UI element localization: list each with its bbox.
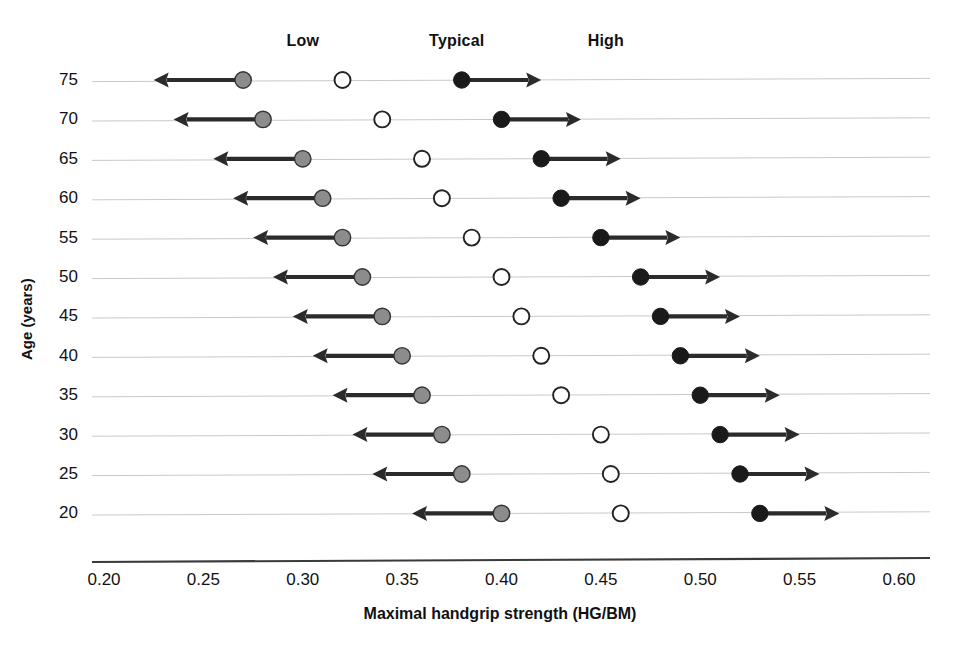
x-tick-0-45: 0.45 [566, 570, 636, 590]
marker-typical-age-30 [593, 427, 609, 443]
arrow-low-age-70 [174, 112, 263, 127]
marker-low-age-75 [235, 72, 251, 88]
y-tick-55: 55 [32, 228, 78, 248]
y-tick-40: 40 [32, 346, 78, 366]
marker-low-age-50 [354, 269, 370, 285]
y-tick-50: 50 [32, 267, 78, 287]
arrow-low-age-60 [233, 191, 322, 206]
marker-low-age-55 [334, 229, 350, 245]
marker-high-age-45 [652, 308, 668, 324]
x-tick-0-35: 0.35 [367, 570, 437, 590]
handgrip-strength-chart: LowTypicalHigh7570656055504540353025200.… [0, 0, 953, 651]
arrow-low-age-35 [333, 388, 422, 403]
marker-low-age-70 [255, 111, 271, 127]
arrow-low-age-40 [313, 348, 402, 363]
arrow-high-age-65 [541, 151, 621, 166]
marker-high-age-20 [752, 505, 768, 521]
arrow-low-age-65-head [213, 151, 228, 166]
gridline-age-30 [92, 433, 930, 436]
marker-typical-age-35 [553, 387, 569, 403]
x-tick-0-30: 0.30 [268, 570, 338, 590]
marker-typical-age-65 [414, 151, 430, 167]
arrow-high-age-60 [561, 191, 641, 206]
y-tick-25: 25 [32, 464, 78, 484]
marker-high-age-35 [692, 387, 708, 403]
group-label-low: Low [286, 32, 319, 50]
y-tick-30: 30 [32, 425, 78, 445]
arrow-low-age-60-head [233, 191, 248, 206]
arrow-high-age-25-head [805, 467, 820, 482]
gridline-age-50 [92, 275, 930, 278]
y-tick-60: 60 [32, 188, 78, 208]
marker-high-age-30 [712, 426, 728, 442]
marker-high-age-70 [493, 111, 509, 127]
arrow-high-age-40-head [745, 348, 760, 363]
marker-typical-age-40 [533, 348, 549, 364]
marker-low-age-40 [394, 348, 410, 364]
y-tick-35: 35 [32, 385, 78, 405]
arrow-low-age-50-head [273, 270, 288, 285]
y-tick-70: 70 [32, 109, 78, 129]
marker-typical-age-60 [434, 190, 450, 206]
marker-typical-age-70 [374, 111, 390, 127]
gridline-age-35 [92, 394, 930, 397]
arrow-high-age-20 [760, 506, 840, 521]
gridline-age-60 [92, 197, 930, 200]
x-tick-0-50: 0.50 [665, 570, 735, 590]
arrow-low-age-45-head [293, 309, 308, 324]
group-label-high: High [588, 32, 624, 50]
arrow-low-age-20 [412, 506, 501, 521]
arrow-high-age-75 [462, 73, 542, 88]
group-label-typical: Typical [429, 32, 484, 50]
arrow-low-age-75 [154, 73, 243, 88]
arrow-high-age-35 [700, 388, 780, 403]
x-tick-0-60: 0.60 [864, 570, 934, 590]
marker-high-age-50 [632, 269, 648, 285]
x-tick-0-40: 0.40 [467, 570, 537, 590]
arrow-low-age-55-head [253, 230, 268, 245]
marker-high-age-75 [454, 72, 470, 88]
marker-high-age-55 [593, 229, 609, 245]
marker-low-age-60 [314, 190, 330, 206]
y-tick-75: 75 [32, 70, 78, 90]
marker-high-age-65 [533, 151, 549, 167]
arrow-low-age-30 [352, 427, 441, 442]
arrow-high-age-35-head [765, 388, 780, 403]
marker-low-age-35 [414, 387, 430, 403]
arrow-high-age-45 [661, 309, 741, 324]
arrow-low-age-55 [253, 230, 342, 245]
marker-typical-age-45 [513, 308, 529, 324]
plot-area [0, 0, 953, 651]
x-axis-line [92, 558, 930, 562]
arrow-low-age-35-head [333, 388, 348, 403]
arrow-low-age-50 [273, 270, 362, 285]
x-tick-0-20: 0.20 [69, 570, 139, 590]
y-axis-title: Age (years) [18, 278, 35, 360]
arrow-high-age-25 [740, 467, 820, 482]
arrow-high-age-50-head [705, 270, 720, 285]
arrow-high-age-55-head [665, 230, 680, 245]
marker-low-age-25 [454, 466, 470, 482]
marker-typical-age-25 [603, 466, 619, 482]
arrow-high-age-70 [502, 112, 582, 127]
y-tick-65: 65 [32, 149, 78, 169]
arrow-high-age-20-head [824, 506, 839, 521]
arrow-low-age-75-head [154, 73, 169, 88]
marker-typical-age-50 [494, 269, 510, 285]
arrow-low-age-45 [293, 309, 382, 324]
gridline-age-45 [92, 315, 930, 318]
y-tick-20: 20 [32, 503, 78, 523]
marker-typical-age-75 [335, 72, 351, 88]
gridline-age-40 [92, 354, 930, 357]
x-tick-0-25: 0.25 [168, 570, 238, 590]
arrow-high-age-55 [601, 230, 681, 245]
marker-low-age-20 [493, 505, 509, 521]
arrow-low-age-65 [213, 151, 302, 166]
arrow-high-age-45-head [725, 309, 740, 324]
x-tick-0-55: 0.55 [765, 570, 835, 590]
arrow-high-age-30 [720, 427, 800, 442]
arrow-low-age-70-head [174, 112, 189, 127]
marker-typical-age-55 [464, 230, 480, 246]
arrow-low-age-25 [372, 467, 461, 482]
arrow-high-age-50 [641, 270, 721, 285]
